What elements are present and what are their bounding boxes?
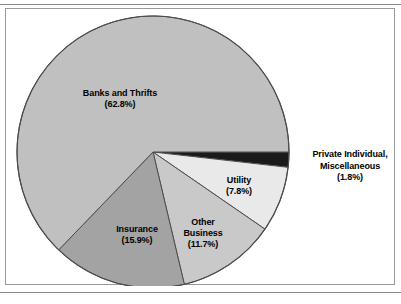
top-horizontal-rule <box>0 4 401 5</box>
slice-label-utility-name: Utility <box>227 175 251 185</box>
slice-label-insurance: Insurance (15.9%) <box>97 224 177 246</box>
slice-label-insurance-percent: (15.9%) <box>97 235 177 246</box>
slice-label-private-individual-name-line-1: Private Individual, <box>312 149 387 159</box>
slice-label-insurance-name: Insurance <box>116 224 158 234</box>
slice-label-private-individual-name-line-2: Miscellaneous <box>298 161 401 173</box>
slice-label-banks-and-thrifts-name: Banks and Thrifts <box>83 88 157 98</box>
slice-label-banks-and-thrifts: Banks and Thrifts (62.8%) <box>64 88 176 110</box>
slice-label-other-business: Other Business (11.7%) <box>167 217 239 250</box>
slice-label-banks-and-thrifts-percent: (62.8%) <box>64 99 176 110</box>
slice-label-private-individual-percent: (1.8%) <box>298 172 401 184</box>
slice-label-other-business-name-line-1: Other <box>191 217 215 227</box>
slice-label-utility-percent: (7.8%) <box>209 186 269 197</box>
slice-label-other-business-percent: (11.7%) <box>167 239 239 250</box>
slice-label-private-individual-miscellaneous: Private Individual, Miscellaneous (1.8%) <box>298 149 401 184</box>
chart-frame: Banks and Thrifts (62.8%) Insurance (15.… <box>5 8 395 285</box>
bottom-horizontal-rule <box>0 292 401 293</box>
slice-label-utility: Utility (7.8%) <box>209 175 269 197</box>
slice-label-other-business-name-line-2: Business <box>167 228 239 239</box>
